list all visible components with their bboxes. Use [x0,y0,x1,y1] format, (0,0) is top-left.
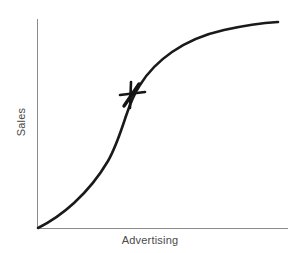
inflection-point-marker [120,82,145,108]
y-axis-label: Sales [15,92,27,152]
chart-canvas [0,0,300,253]
chart-figure: Sales Advertising [0,0,300,253]
x-axis-label: Advertising [0,234,300,246]
marker-cross-stroke-horizontal [120,92,145,95]
sales-response-curve [38,22,278,228]
marker-cross-stroke-vertical [130,82,131,108]
